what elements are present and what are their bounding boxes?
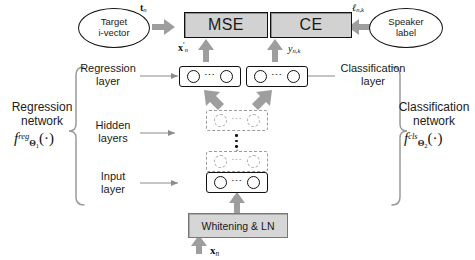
- neuron: [247, 176, 260, 189]
- classification-layer-label-line1: Classification: [334, 62, 412, 75]
- neuron-ellipsis: ⋯: [271, 70, 283, 81]
- regression-network-label-line2: network: [4, 114, 80, 128]
- target-ivector-label-line2: i-vector: [98, 28, 129, 39]
- neuron: [214, 155, 227, 168]
- regression-layer-label: Regression layer: [76, 62, 140, 88]
- speaker-label-math-label: ℓn,k: [352, 2, 364, 13]
- ce-loss-box: CE: [270, 12, 352, 38]
- neuron-ellipsis: ⋯: [231, 176, 243, 187]
- arrow-reglayer-to-mse: [198, 39, 214, 62]
- regression-layer-label-line2: layer: [76, 75, 140, 88]
- input-layer-label-line1: Input: [86, 170, 140, 183]
- target-vector-math-label: tn: [140, 2, 147, 13]
- neuron: [187, 70, 200, 83]
- classification-network-formula: fclsΘ2(·): [404, 130, 443, 148]
- neuron: [214, 176, 227, 189]
- classification-layer-box: ⋯: [246, 66, 308, 87]
- neuron: [247, 114, 260, 127]
- speaker-label-node: Speaker label: [369, 8, 443, 48]
- hidden-layers-label-line1: Hidden: [86, 119, 140, 132]
- input-layer-label-line2: layer: [86, 183, 140, 196]
- arrow-clslayer-to-ce: [267, 39, 283, 62]
- neuron: [247, 155, 260, 168]
- arrow-hidden-to-classification: [252, 90, 272, 110]
- classification-output-math-label: yn,k: [288, 43, 300, 54]
- neuron-ellipsis: ⋯: [204, 70, 216, 81]
- hidden-layers-vertical-ellipsis: [235, 134, 238, 148]
- neuron: [254, 70, 267, 83]
- regression-output-math-label: x′n: [178, 41, 188, 53]
- hidden-layers-label-line2: layers: [86, 132, 140, 145]
- neuron: [287, 70, 300, 83]
- regression-network-label-line1: Regression: [4, 100, 80, 114]
- hidden-layers-label: Hidden layers: [86, 119, 140, 145]
- arrow-whitening-to-input: [229, 192, 245, 213]
- speaker-label-line2: label: [388, 28, 423, 39]
- arrow-target-to-mse: [152, 19, 175, 35]
- ce-loss-label: CE: [299, 16, 322, 34]
- neuron: [220, 70, 233, 83]
- mse-loss-box: MSE: [184, 12, 268, 38]
- classification-network-label-line1: Classification: [394, 100, 474, 114]
- classification-layer-label-line2: layer: [334, 75, 412, 88]
- regression-layer-box: ⋯: [179, 66, 241, 87]
- neuron-ellipsis: ⋯: [231, 114, 243, 125]
- network-input-math-label: xn: [210, 244, 219, 258]
- input-layer-label: Input layer: [86, 170, 140, 196]
- target-ivector-node: Target i-vector: [78, 8, 150, 48]
- regression-layer-label-line1: Regression: [76, 62, 140, 75]
- regression-network-label: Regression network: [4, 100, 80, 128]
- neuron: [214, 114, 227, 127]
- whitening-ln-label: Whitening & LN: [202, 220, 275, 232]
- regression-network-formula: fregΘ1(·): [14, 130, 54, 148]
- neuron-ellipsis: ⋯: [231, 155, 243, 166]
- arrow-hidden-to-regression: [204, 90, 224, 110]
- hidden-layer-box-lower: ⋯: [206, 151, 268, 172]
- hidden-layer-box-upper: ⋯: [206, 110, 268, 131]
- whitening-ln-box: Whitening & LN: [188, 213, 288, 238]
- classification-layer-label: Classification layer: [334, 62, 412, 88]
- network-architecture-diagram: Target i-vector Speaker label tn ℓn,k MS…: [0, 0, 475, 260]
- classification-network-label: Classification network: [394, 100, 474, 128]
- mse-loss-label: MSE: [208, 16, 244, 34]
- input-layer-box: ⋯: [206, 172, 268, 193]
- classification-network-label-line2: network: [394, 114, 474, 128]
